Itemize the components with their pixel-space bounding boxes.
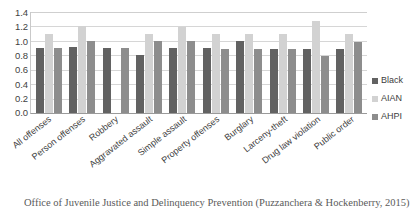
legend-label: AIAN [381,94,402,103]
bar-aian [345,34,353,113]
bar-chart: 1.41.21.00.80.60.40.20.0 All offensesPer… [0,0,419,190]
bar-group [32,12,65,113]
bar-ahpi [254,49,262,113]
bar-aian [78,26,86,113]
plot-area [30,12,367,114]
bar-aian [145,34,153,113]
bar-black [103,48,111,113]
legend-label: AHPI [381,112,402,121]
legend-item[interactable]: AIAN [372,94,419,103]
bar-aian [178,27,186,113]
bar-ahpi [321,56,329,113]
bar-black [270,49,278,113]
y-tick-label: 0.0 [15,108,28,118]
bar-group [266,12,299,113]
bar-black [69,47,77,113]
bar-group [166,12,199,113]
bar-ahpi [221,49,229,113]
bar-groups [31,12,367,113]
bar-group [333,12,366,113]
y-tick-label: 0.2 [15,94,28,104]
legend-item[interactable]: Black [372,76,419,85]
bar-black [303,49,311,113]
y-tick-label: 1.2 [15,22,28,32]
x-axis-label: Aggravated assault [87,114,154,169]
legend-swatch-icon [372,114,378,120]
figure: 1.41.21.00.80.60.40.20.0 All offensesPer… [0,0,419,211]
bar-ahpi [354,42,362,113]
y-tick-label: 1.0 [15,37,28,47]
bar-ahpi [121,48,129,113]
bar-group [132,12,165,113]
bar-group [299,12,332,113]
y-tick-label: 0.8 [15,51,28,61]
legend-item[interactable]: AHPI [372,112,419,121]
x-axis-label: Drug law violation [260,114,322,166]
bar-ahpi [54,48,62,113]
x-axis-label: Property offenses [160,114,222,165]
bar-black [203,48,211,113]
bar-black [236,41,244,113]
x-axis-category-labels: All offensesPerson offensesRobberyAggrav… [30,114,367,190]
bar-group [99,12,132,113]
y-tick-label: 0.4 [15,80,28,90]
figure-caption: Office of Juvenile Justice and Delinquen… [24,197,419,209]
bar-ahpi [288,49,296,113]
bar-aian [279,34,287,113]
bar-black [169,48,177,113]
bar-aian [245,34,253,113]
legend-swatch-icon [372,78,378,84]
bar-aian [312,21,320,113]
bar-aian [212,34,220,113]
bar-aian [45,34,53,113]
legend-label: Black [381,76,403,85]
legend-swatch-icon [372,96,378,102]
bar-ahpi [154,41,162,113]
bar-ahpi [87,41,95,113]
bar-black [336,49,344,113]
bar-group [199,12,232,113]
bar-ahpi [187,41,195,113]
y-tick-label: 1.4 [15,8,28,18]
bar-group [232,12,265,113]
y-tick-label: 0.6 [15,65,28,75]
bar-black [36,48,44,113]
y-axis-tick-labels: 1.41.21.00.80.60.40.20.0 [2,8,28,118]
bar-black [136,55,144,113]
chart-legend: BlackAIANAHPI [372,76,419,121]
bar-group [65,12,98,113]
